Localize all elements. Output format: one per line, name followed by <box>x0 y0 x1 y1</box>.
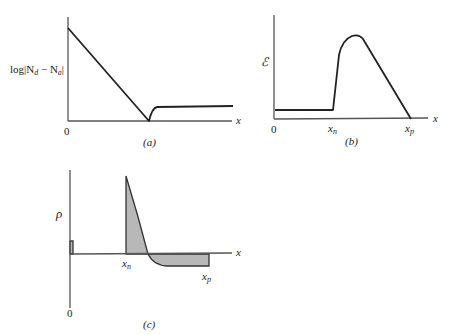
panel-c-x-label: x <box>235 246 241 258</box>
panel-a-caption: (a) <box>143 136 156 149</box>
panel-b-field-curve <box>275 35 411 119</box>
panel-b: ℰ x 0 xn xp (b) <box>261 15 438 148</box>
panel-b-caption: (b) <box>345 135 358 148</box>
panel-a-origin: 0 <box>64 125 70 137</box>
panel-b-x-axis <box>274 118 428 119</box>
panel-b-tick-xn: xn <box>327 122 337 136</box>
panel-c-origin: 0 <box>67 307 73 319</box>
panel-a-doping-curve <box>68 28 233 121</box>
panel-b-x-label: x <box>432 112 438 124</box>
panel-a: log|Nd − Na| x 0 (a) <box>10 17 241 149</box>
panel-c-caption: (c) <box>143 318 156 331</box>
panel-c-positive-charge-region <box>126 176 148 254</box>
panel-c-y-label: ρ <box>55 206 62 221</box>
figure-canvas: log|Nd − Na| x 0 (a) ℰ x 0 xn xp (b) ρ x… <box>0 0 450 335</box>
panel-c-negative-charge-region <box>148 254 209 266</box>
panel-a-x-label: x <box>235 114 241 126</box>
panel-b-origin: 0 <box>271 123 277 135</box>
panel-c-tick-xn: xn <box>121 257 131 271</box>
panel-a-y-label: log|Nd − Na| <box>10 63 64 77</box>
panel-c-tick-xp: xp <box>201 270 211 284</box>
panel-c: ρ x 0 xn xp (c) <box>55 170 241 331</box>
panel-b-tick-xp: xp <box>404 122 414 136</box>
panel-b-y-label: ℰ <box>261 55 270 69</box>
